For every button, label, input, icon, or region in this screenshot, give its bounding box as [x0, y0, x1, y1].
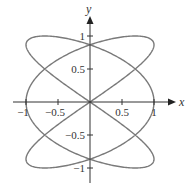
y-tick-label: −0.5: [65, 129, 85, 141]
x-tick-label: 0.5: [115, 106, 129, 118]
x-axis-label: x: [178, 95, 185, 109]
x-axis: x: [13, 95, 185, 109]
y-axis-label: y: [85, 2, 92, 16]
x-tick-label: 1: [151, 106, 157, 118]
y-axis: y: [85, 2, 94, 183]
lissajous-chart: x y −1−0.50.5110.5−0.5−1: [0, 0, 196, 191]
y-tick-label: −1: [73, 162, 85, 174]
x-tick-label: −1: [17, 106, 29, 118]
y-axis-arrow-icon: [87, 16, 94, 24]
x-axis-arrow-icon: [168, 99, 176, 106]
y-tick-label: 0.5: [71, 63, 85, 75]
y-tick-label: 1: [80, 30, 86, 42]
x-tick-label: −0.5: [45, 106, 65, 118]
